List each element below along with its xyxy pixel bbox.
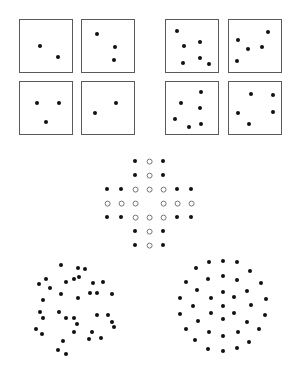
regular-circle-dot [264, 297, 268, 301]
random-circle-dot [110, 292, 114, 296]
random-circle-dot [88, 291, 92, 295]
random-circle-dot [76, 266, 80, 270]
random-circle-dot [41, 316, 45, 320]
random-circle-dot [87, 337, 91, 341]
regular-circle-dot [178, 296, 182, 300]
regular-circle-dot [232, 295, 236, 299]
regular-circle-dot [221, 317, 225, 321]
random-circle-dot [56, 348, 60, 352]
random-circle-dot [106, 313, 110, 317]
random-circle-dot [90, 330, 94, 334]
regular-circle-dot [195, 288, 199, 292]
regular-circle-dot [259, 281, 263, 285]
circle-dot-fields [0, 0, 302, 367]
regular-circle-dot [207, 330, 211, 334]
random-circle-dot [37, 282, 41, 286]
regular-circle-dot [221, 274, 225, 278]
regular-circle-dot [235, 346, 239, 350]
random-circle-dot [72, 330, 76, 334]
regular-circle-dot [257, 327, 261, 331]
random-circle-dot [41, 298, 45, 302]
regular-circle-dot [221, 334, 225, 338]
regular-circle-dot [191, 304, 195, 308]
regular-circle-dot [221, 259, 225, 263]
random-circle-dot [38, 310, 42, 314]
random-circle-dot [64, 316, 68, 320]
random-circle-dot [72, 277, 76, 281]
random-circle-dot [83, 267, 87, 271]
random-circle-dot [110, 320, 114, 324]
regular-circle-dot [207, 260, 211, 264]
regular-circle-dot [206, 277, 210, 281]
regular-circle-dot [236, 330, 240, 334]
random-circle-dot [64, 280, 68, 284]
random-circle-dot [44, 277, 48, 281]
regular-circle-dot [235, 260, 239, 264]
regular-circle-dot [196, 319, 200, 323]
random-circle-dot [76, 296, 80, 300]
regular-circle-dot [184, 280, 188, 284]
regular-circle-dot [194, 266, 198, 270]
random-circle-dot [34, 327, 38, 331]
regular-circle-dot [221, 349, 225, 353]
regular-circle-dot [248, 269, 252, 273]
regular-circle-dot [221, 304, 225, 308]
regular-circle-dot [245, 320, 249, 324]
random-circle-dot [99, 336, 103, 340]
random-circle-dot [59, 292, 63, 296]
random-circle-dot [40, 332, 44, 336]
random-circle-dot [91, 281, 95, 285]
regular-circle-dot [221, 290, 225, 294]
regular-circle-dot [232, 311, 236, 315]
regular-circle-dot [206, 347, 210, 351]
random-circle-dot [57, 310, 61, 314]
random-circle-dot [72, 316, 76, 320]
regular-circle-dot [193, 338, 197, 342]
random-circle-dot [112, 325, 116, 329]
random-circle-dot [95, 313, 99, 317]
random-circle-dot [101, 280, 105, 284]
regular-circle-dot [209, 296, 213, 300]
regular-circle-dot [245, 289, 249, 293]
random-circle-dot [64, 352, 68, 356]
regular-circle-dot [184, 327, 188, 331]
diagram-canvas [0, 0, 302, 367]
random-circle-dot [48, 286, 52, 290]
regular-circle-dot [235, 278, 239, 282]
regular-circle-dot [249, 303, 253, 307]
random-circle-dot [75, 322, 79, 326]
regular-circle-dot [209, 311, 213, 315]
regular-circle-dot [263, 313, 267, 317]
random-circle-dot [95, 291, 99, 295]
random-circle-dot [61, 339, 65, 343]
regular-circle-dot [178, 312, 182, 316]
random-circle-dot [59, 263, 63, 267]
regular-circle-dot [247, 340, 251, 344]
random-circle-dot [77, 275, 81, 279]
